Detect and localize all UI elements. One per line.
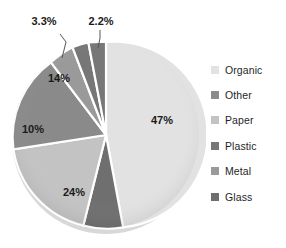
legend-label-metal: Metal: [225, 165, 251, 177]
legend-label-plastic: Plastic: [225, 140, 257, 152]
pie-shade-overlay: [13, 42, 199, 228]
pie-chart-canvas: 47% 24% 10% 14% 3.3% 2.2%: [0, 0, 206, 248]
legend-item-metal[interactable]: Metal: [211, 159, 286, 184]
legend-label-paper: Paper: [225, 114, 254, 126]
legend-swatch-icon-other: [211, 91, 219, 99]
legend-item-glass[interactable]: Glass: [211, 184, 286, 209]
callout-label-metal: 3.3%: [31, 15, 56, 27]
legend-item-paper[interactable]: Paper: [211, 108, 286, 133]
legend-label-glass: Glass: [225, 191, 252, 203]
slice-label-paper: 10%: [22, 123, 44, 135]
callout-label-plastic: 2.2%: [88, 15, 113, 27]
pie-chart: 47% 24% 10% 14% 3.3% 2.2% Organic Other …: [0, 0, 286, 248]
legend-swatch-icon-plastic: [211, 142, 219, 150]
legend-swatch-icon-organic: [211, 66, 219, 74]
slice-label-other: 14%: [48, 72, 70, 84]
legend-label-organic: Organic: [225, 64, 262, 76]
legend-swatch-icon-paper: [211, 116, 219, 124]
slice-label-organic: 47%: [151, 114, 173, 126]
slice-label-glass: 24%: [63, 186, 85, 198]
legend-label-other: Other: [225, 89, 252, 101]
legend-item-plastic[interactable]: Plastic: [211, 133, 286, 158]
legend-swatch-icon-glass: [211, 193, 219, 201]
legend-swatch-icon-metal: [211, 167, 219, 175]
legend-item-other[interactable]: Other: [211, 82, 286, 107]
legend-item-organic[interactable]: Organic: [211, 57, 286, 82]
chart-legend: Organic Other Paper Plastic Metal Glass: [211, 57, 286, 209]
